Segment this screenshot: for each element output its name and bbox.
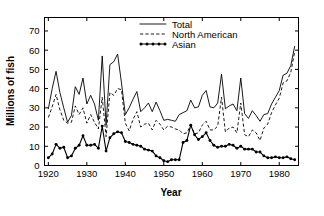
asian-point-1920 bbox=[47, 156, 50, 159]
asian-point-1952 bbox=[170, 158, 173, 161]
legend-label-asian: Asian bbox=[172, 39, 196, 50]
x-tick-label-1950: 1950 bbox=[153, 168, 174, 179]
asian-point-1941 bbox=[128, 141, 131, 144]
asian-point-1934 bbox=[101, 125, 104, 128]
asian-point-1944 bbox=[139, 145, 142, 148]
asian-point-1948 bbox=[155, 154, 158, 157]
asian-point-1939 bbox=[120, 131, 123, 134]
asian-point-1980 bbox=[278, 156, 281, 159]
asian-point-1933 bbox=[97, 147, 100, 150]
x-tick-label-1980: 1980 bbox=[269, 168, 290, 179]
y-tick-label-50: 50 bbox=[29, 64, 40, 75]
asian-point-1946 bbox=[147, 149, 150, 152]
y-tick-label-30: 30 bbox=[29, 102, 40, 113]
fish-landings-line-chart: 010203040506070 192019301940195019601970… bbox=[0, 0, 324, 216]
x-tick-label-1970: 1970 bbox=[230, 168, 251, 179]
asian-point-1962 bbox=[209, 139, 212, 142]
asian-point-1945 bbox=[143, 148, 146, 151]
asian-point-1970 bbox=[239, 145, 242, 148]
asian-point-1969 bbox=[235, 147, 238, 150]
asian-point-1977 bbox=[266, 156, 269, 159]
asian-point-1932 bbox=[93, 143, 96, 146]
asian-point-1951 bbox=[166, 160, 169, 163]
x-tick-label-1960: 1960 bbox=[192, 168, 213, 179]
asian-point-1955 bbox=[182, 141, 185, 144]
asian-point-1924 bbox=[62, 146, 65, 149]
y-tick-label-40: 40 bbox=[29, 83, 40, 94]
asian-point-1953 bbox=[174, 158, 177, 161]
asian-point-1958 bbox=[193, 133, 196, 136]
asian-point-1923 bbox=[58, 147, 61, 150]
asian-point-1981 bbox=[282, 156, 285, 159]
asian-point-1935 bbox=[105, 150, 108, 153]
asian-point-1937 bbox=[112, 132, 115, 135]
asian-point-1972 bbox=[247, 148, 250, 151]
asian-point-1975 bbox=[259, 151, 262, 154]
asian-point-1954 bbox=[178, 158, 181, 161]
asian-point-1984 bbox=[293, 158, 296, 161]
y-axis-title: Millions of fish bbox=[5, 56, 16, 126]
y-tick-label-70: 70 bbox=[29, 25, 40, 36]
asian-point-1947 bbox=[151, 150, 154, 153]
asian-point-1943 bbox=[135, 144, 138, 147]
asian-point-1966 bbox=[224, 145, 227, 148]
asian-point-1983 bbox=[289, 157, 292, 160]
asian-point-1925 bbox=[66, 156, 69, 159]
asian-point-1965 bbox=[220, 145, 223, 148]
asian-point-1922 bbox=[55, 143, 58, 146]
asian-point-1940 bbox=[124, 140, 127, 143]
asian-point-1964 bbox=[216, 146, 219, 149]
asian-point-1979 bbox=[274, 155, 277, 158]
asian-point-1971 bbox=[243, 148, 246, 151]
asian-point-1968 bbox=[232, 144, 235, 147]
asian-point-1950 bbox=[162, 159, 165, 162]
asian-point-1978 bbox=[270, 156, 273, 159]
asian-point-1928 bbox=[78, 144, 81, 147]
asian-point-1959 bbox=[197, 138, 200, 141]
chart-figure: 010203040506070 192019301940195019601970… bbox=[0, 0, 324, 216]
x-tick-label-1930: 1930 bbox=[76, 168, 97, 179]
asian-point-1976 bbox=[262, 154, 265, 157]
asian-point-1960 bbox=[201, 135, 204, 138]
asian-point-1931 bbox=[89, 144, 92, 147]
asian-point-1936 bbox=[108, 136, 111, 139]
asian-point-1957 bbox=[189, 124, 192, 127]
asian-point-1927 bbox=[74, 147, 77, 150]
x-tick-label-1940: 1940 bbox=[115, 168, 136, 179]
y-tick-label-60: 60 bbox=[29, 45, 40, 56]
asian-point-1956 bbox=[185, 139, 188, 142]
x-axis-title: Year bbox=[160, 187, 181, 198]
asian-point-1930 bbox=[85, 144, 88, 147]
asian-point-1938 bbox=[116, 130, 119, 133]
y-tick-label-20: 20 bbox=[29, 121, 40, 132]
asian-point-1982 bbox=[286, 155, 289, 158]
asian-point-1974 bbox=[255, 151, 258, 154]
asian-point-1929 bbox=[82, 134, 85, 137]
asian-point-1949 bbox=[159, 156, 162, 159]
asian-point-1967 bbox=[228, 143, 231, 146]
asian-point-1963 bbox=[212, 144, 215, 147]
asian-point-1926 bbox=[70, 154, 73, 157]
asian-point-1961 bbox=[205, 131, 208, 134]
asian-point-1973 bbox=[251, 148, 254, 151]
y-tick-label-10: 10 bbox=[29, 141, 40, 152]
x-tick-label-1920: 1920 bbox=[38, 168, 59, 179]
asian-point-1942 bbox=[132, 143, 135, 146]
asian-point-1921 bbox=[51, 153, 54, 156]
